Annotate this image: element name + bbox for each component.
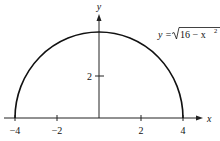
x-axis-label: x: [206, 113, 212, 124]
x-tick-label-4: 4: [181, 125, 186, 136]
equation-radicand: 16 − x: [180, 29, 206, 40]
equation-exponent: 2: [214, 27, 217, 34]
x-tick-label-2: 2: [139, 125, 144, 136]
equation-lhs: y =: [157, 29, 172, 40]
x-tick-label-neg2: −2: [52, 125, 63, 136]
x-axis-arrow-icon: [196, 116, 203, 121]
semicircle-plot: −4 −2 2 4 2 x y y = 16 − x 2: [0, 0, 220, 141]
y-axis-label: y: [96, 1, 102, 12]
y-axis-arrow-icon: [97, 14, 102, 21]
x-tick-label-neg4: −4: [10, 125, 21, 136]
y-tick-label-2: 2: [87, 71, 92, 82]
equation-label: y = 16 − x 2: [157, 27, 220, 40]
